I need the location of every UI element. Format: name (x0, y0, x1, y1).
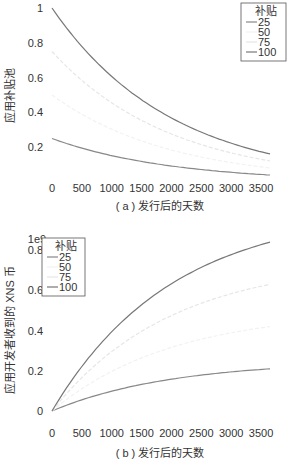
x-tick-label: 2500 (189, 427, 213, 439)
x-tick-label: 1500 (129, 182, 153, 194)
series-line-50 (52, 95, 270, 168)
y-tick-label: 0.4 (28, 325, 43, 337)
x-axis-label: ( a ) 发行后的天数 (116, 199, 205, 212)
x-tick-label: 3000 (219, 427, 243, 439)
x-tick-label: 2500 (189, 182, 213, 194)
x-tick-label: 0 (49, 427, 55, 439)
y-axis-label: 应用开发者收到的 XNS 币 (3, 266, 16, 394)
x-tick-label: 500 (73, 427, 91, 439)
x-tick-label: 3500 (249, 427, 273, 439)
y-tick-label: 0.2 (28, 365, 43, 377)
legend-label-100: 100 (258, 46, 276, 58)
series-line-75 (52, 284, 270, 411)
x-tick-label: 2000 (159, 182, 183, 194)
x-tick-label: 1500 (129, 427, 153, 439)
series-line-100 (52, 8, 270, 154)
y-tick-label: 0 (37, 405, 43, 417)
x-tick-label: 500 (73, 182, 91, 194)
x-axis-label: ( b ) 发行后的天数 (116, 446, 205, 459)
series-line-25 (52, 139, 270, 176)
y-axis-label: 应用补贴池 (3, 68, 16, 123)
x-tick-label: 3000 (219, 182, 243, 194)
figure: 05001000150020002500300035000.20.40.60.8… (0, 0, 288, 466)
y-tick-label: 1 (37, 2, 43, 14)
legend-label-100: 100 (59, 281, 77, 293)
x-tick-label: 0 (49, 182, 55, 194)
y-tick-label: 0.8 (28, 37, 43, 49)
x-tick-label: 1000 (99, 182, 123, 194)
y-tick-label: 0.6 (28, 72, 43, 84)
x-tick-label: 3500 (249, 182, 273, 194)
y-tick-label: 0.6 (28, 284, 43, 296)
y-tick-label: 0.2 (28, 141, 43, 153)
x-tick-label: 2000 (159, 427, 183, 439)
x-tick-label: 1000 (99, 427, 123, 439)
y-tick-label: 0.4 (28, 106, 43, 118)
y-tick-label: 0.8 (28, 244, 43, 256)
